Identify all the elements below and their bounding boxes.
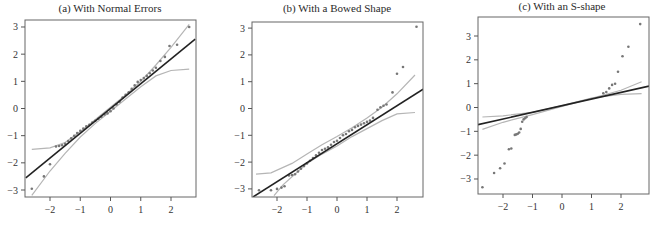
data-point [76,132,79,135]
y-tick-label: 3 [240,23,245,34]
data-point [396,72,399,75]
qq-plot-figure: (a) With Normal Errors −3−2−10123−2−1012… [0,0,650,225]
y-tick-label: 3 [13,21,18,32]
data-point [354,126,357,129]
axes: −3−2−10123−2−1012 [7,21,173,215]
data-point [164,56,167,59]
x-tick-label: 1 [365,204,370,215]
y-tick-label: 2 [240,49,245,60]
data-point [363,122,366,125]
x-tick-label: 1 [138,204,143,215]
band-curve [274,113,415,196]
data-point [521,121,524,124]
confidence-band [256,75,415,196]
x-tick-label: 0 [108,204,113,215]
y-tick-label: 0 [13,103,18,114]
y-tick-label: −3 [460,173,471,184]
data-point [283,185,286,188]
band-curve [256,75,415,174]
data-point [324,147,327,150]
band-curve [32,69,189,195]
data-point [109,110,112,113]
y-tick-label: −1 [460,126,471,137]
x-tick-label: 2 [169,204,174,215]
data-point [481,186,484,189]
data-point [146,75,149,78]
data-point [61,144,64,147]
axes: −3−2−10123−2−1012 [234,23,399,215]
y-tick-label: 0 [466,102,471,113]
data-point [605,91,608,94]
panel-b: (b) With a Bowed Shape −3−2−10123−2−1012 [234,2,423,215]
data-point [621,55,624,58]
data-point [415,26,418,29]
data-point [276,188,279,191]
panel-title: (b) With a Bowed Shape [283,2,391,15]
data-point [176,43,179,46]
data-point [339,137,342,140]
axes: −3−2−10123−2−1012 [460,31,623,212]
data-point [31,187,34,190]
data-point [376,109,379,112]
data-point [366,121,369,124]
y-tick-label: −2 [460,150,471,161]
data-point [336,139,339,142]
data-point [143,77,146,80]
x-tick-label: 1 [589,201,594,212]
x-tick-label: −2 [498,201,509,212]
x-tick-label: −2 [272,204,283,215]
data-point [49,163,52,166]
data-point [159,60,162,63]
data-point [294,173,297,176]
band-curve [32,24,189,149]
data-point [345,133,348,136]
confidence-band [32,24,189,195]
data-point [280,186,283,189]
reference-line [478,86,649,125]
y-tick-label: 2 [466,54,471,65]
x-tick-label: −1 [527,201,538,212]
y-tick-label: 3 [466,31,471,42]
data-point [321,149,324,152]
data-point [348,130,351,133]
x-tick-label: 0 [335,204,340,215]
y-tick-label: −1 [234,130,245,141]
y-tick-label: −2 [234,157,245,168]
data-point [297,170,300,173]
y-tick-label: −3 [7,185,18,196]
data-point [385,103,388,106]
x-tick-label: 0 [560,201,565,212]
data-point [188,26,191,29]
data-point [391,91,394,94]
data-point [330,143,333,146]
data-point [149,72,152,75]
plot-frame [252,22,423,197]
data-point [372,117,375,120]
data-point [379,106,382,109]
y-tick-label: −1 [7,130,18,141]
reference-line [253,89,423,197]
data-point [508,148,511,151]
data-point [168,45,171,48]
x-tick-label: 2 [395,204,400,215]
data-point [360,123,363,126]
data-point [510,147,513,150]
data-point [58,145,61,148]
data-point [518,131,521,134]
data-point [43,175,46,178]
data-point [291,174,294,177]
data-point [382,105,385,108]
data-point [614,82,617,85]
data-point [627,45,630,48]
y-tick-label: 2 [13,49,18,60]
reference-line [26,39,195,178]
x-tick-label: −2 [45,204,56,215]
panel-title: (c) With an S-shape [518,0,605,13]
data-point [342,134,345,137]
data-point [525,116,528,119]
data-point [617,71,620,74]
data-point [351,129,354,132]
data-point [519,128,522,131]
x-tick-label: −1 [75,204,86,215]
panel-a: (a) With Normal Errors −3−2−10123−2−1012 [7,2,196,215]
